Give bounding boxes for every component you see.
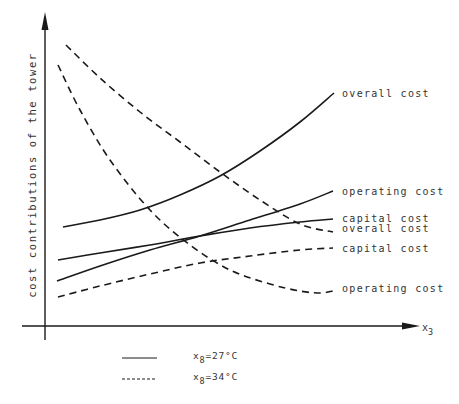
y-axis-label: cost contributions of the tower [26,52,38,298]
legend-dashed-value: =34°C [205,371,238,382]
chart-canvas: cost contributions of the tower x3 overa… [0,0,459,404]
legend-item-solid: x8=27°C [122,350,238,365]
curve-capital-cost-27 [58,219,333,260]
legend-solid-label: x8=27°C [193,350,238,365]
x-axis-label-sub: 3 [428,327,433,337]
legend-solid-value: =27°C [205,350,238,361]
label-operating-cost-27: operating cost [342,186,445,197]
legend-dashed-label: x8=34°C [193,371,238,386]
x-axis-label: x3 [422,322,433,337]
curves [57,45,334,297]
chart: cost contributions of the tower x3 overa… [0,0,459,404]
label-overall-cost-27: overall cost [342,88,430,99]
label-operating-cost-34: operating cost [342,283,445,294]
x-axis-arrow-icon [402,323,420,330]
legend-item-dashed: x8=34°C [122,371,238,386]
curve-labels: overall cost operating cost capital cost… [342,88,445,294]
curve-operating-cost-27 [57,191,333,281]
legend: x8=27°C x8=34°C [122,350,238,386]
curve-operating-cost-34 [58,65,333,293]
curve-overall-cost-34 [66,45,333,232]
y-axis-arrow-icon [42,12,49,30]
label-overall-cost-34: overall cost [342,223,430,234]
label-capital-cost-34: capital cost [342,243,430,254]
